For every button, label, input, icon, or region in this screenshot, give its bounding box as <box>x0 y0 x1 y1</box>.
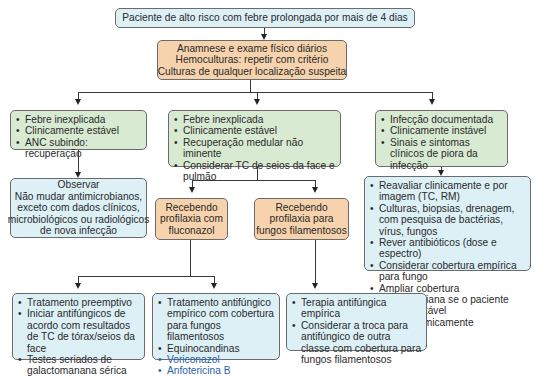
prophylaxis-line: fluconazol <box>169 225 215 236</box>
arrow-icon <box>75 283 81 289</box>
reassess-item: Culturas, biopsias, drenagem, com pesqui… <box>369 203 526 237</box>
observe-node: Observar Não mudar antimicrobianos, exce… <box>10 178 147 238</box>
outcome-item: Tratamento preemptivo <box>17 297 140 308</box>
reassess-item: Rever antibióticos (dose e espectro) <box>369 237 526 260</box>
condition-item: Clinicamente instável <box>380 125 503 136</box>
empiric-coverage-node: Tratamento antifúngico empírico com cobe… <box>152 293 280 360</box>
condition-documented-infection: Infecção documentada Clinicamente instáv… <box>375 110 508 167</box>
arrow-icon <box>312 187 318 193</box>
condition-item: Febre inexplicada <box>173 114 336 125</box>
preemptive-treatment-node: Tratamento preemptivo Iniciar antifúngic… <box>12 293 145 360</box>
prophylaxis-line: profilaxia para <box>270 213 334 224</box>
evaluation-node: Anamnese e exame físico diários Hemocult… <box>157 40 347 80</box>
connector <box>315 240 316 285</box>
prophylaxis-line: profilaxia com <box>160 213 223 224</box>
arrow-icon <box>429 99 435 105</box>
observe-line: Observar <box>58 179 100 190</box>
outcome-item: Testes seriados de galactomanana sérica <box>17 354 140 377</box>
outcome-item: Equinocandinas <box>157 343 275 354</box>
arrow-icon <box>312 283 318 289</box>
condition-item: Recuperação medular não iminente <box>173 137 336 160</box>
condition-item: Clinicamente estável <box>173 125 336 136</box>
evaluation-line: Hemoculturas: repetir com critério <box>176 54 329 65</box>
drug-item: Anfotericina B <box>157 365 275 376</box>
prophylaxis-line: Recebendo <box>165 202 217 213</box>
reassess-item: Considerar cobertura empírica para fungo <box>369 260 526 283</box>
condition-stable-no-recovery: Febre inexplicada Clinicamente estável R… <box>168 110 341 167</box>
condition-item: Clinicamente estável <box>15 125 142 136</box>
arrow-icon <box>75 99 81 105</box>
reassess-item: Reavaliar clinicamente e por imagem (TC,… <box>369 180 526 203</box>
arrow-icon <box>211 283 217 289</box>
observe-line: microbiológicos ou radiológicos <box>8 214 150 225</box>
condition-stable-recovering: Febre inexplicada Clinicamente estável A… <box>10 110 147 150</box>
condition-item: Infecção documentada <box>380 114 503 125</box>
evaluation-line: Anamnese e exame físico diários <box>177 43 327 54</box>
prophylaxis-line: Recebendo <box>275 202 327 213</box>
drug-item: Voriconazol <box>157 354 275 365</box>
switch-class-node: Terapia antifúngica empírica Considerar … <box>286 293 427 351</box>
evaluation-line: Culturas de qualquer localização suspeit… <box>158 66 347 77</box>
reassess-node: Reavaliar clinicamente e por imagem (TC,… <box>364 176 531 271</box>
connector <box>257 167 258 180</box>
outcome-item: Considerar a troca para antifúngico de o… <box>291 320 422 366</box>
filamentous-prophylaxis-node: Recebendo profilaxia para fungos filamen… <box>254 198 349 240</box>
observe-line: de nova infecção <box>40 225 117 236</box>
outcome-item: Iniciar antifúngicos de acordo com resul… <box>17 308 140 354</box>
prophylaxis-line: fungos filamentosos <box>256 225 347 236</box>
connector <box>250 80 251 92</box>
arrow-icon <box>254 99 260 105</box>
observe-line: exceto com dados clínicos, <box>17 202 139 213</box>
start-node-label: Paciente de alto risco com febre prolong… <box>122 12 407 23</box>
connector <box>78 92 432 93</box>
connector <box>190 240 191 276</box>
condition-item: Sinais e sintomas clínicos de piora da i… <box>380 137 503 171</box>
observe-line: Não mudar antimicrobianos, <box>15 191 142 202</box>
outcome-item: Terapia antifúngica empírica <box>291 297 422 320</box>
outcome-item: Tratamento antifúngico empírico com cobe… <box>157 297 275 343</box>
fluconazole-prophylaxis-node: Recebendo profilaxia com fluconazol <box>155 198 228 240</box>
condition-item: Febre inexplicada <box>15 114 142 125</box>
connector <box>192 180 315 181</box>
connector <box>78 276 214 277</box>
arrow-icon <box>189 187 195 193</box>
start-node-high-risk-patient: Paciente de alto risco com febre prolong… <box>115 8 415 28</box>
